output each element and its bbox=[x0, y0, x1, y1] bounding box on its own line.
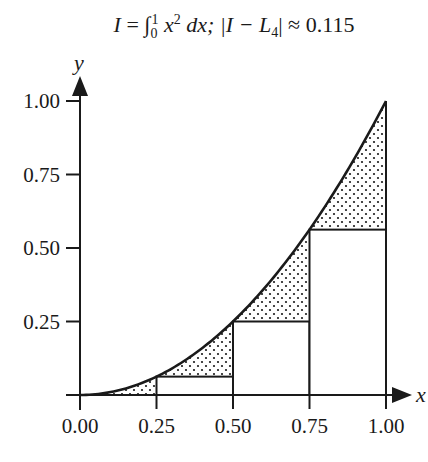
riemann-rectangle bbox=[310, 230, 387, 395]
y-tick-label: 0.25 bbox=[23, 310, 60, 334]
riemann-rectangle bbox=[233, 322, 310, 396]
x-tick-label: 1.00 bbox=[368, 414, 405, 438]
error-segment bbox=[233, 230, 310, 322]
x-tick-label: 0.75 bbox=[291, 414, 328, 438]
y-axis-arrow-icon bbox=[72, 76, 88, 96]
plot-area: xy 0.000.250.500.751.000.250.500.751.00 bbox=[0, 0, 428, 462]
x-tick-label: 0.25 bbox=[138, 414, 175, 438]
x-axis-label: x bbox=[415, 382, 426, 407]
error-segment bbox=[157, 322, 234, 377]
x-axis-arrow-icon bbox=[392, 387, 412, 403]
riemann-rectangle bbox=[157, 377, 234, 395]
y-axis-label: y bbox=[72, 50, 84, 75]
y-tick-label: 1.00 bbox=[23, 89, 60, 113]
error-segment bbox=[80, 377, 157, 395]
x-tick-label: 0.00 bbox=[62, 414, 99, 438]
y-tick-label: 0.50 bbox=[23, 236, 60, 260]
y-tick-label: 0.75 bbox=[23, 163, 60, 187]
x-tick-label: 0.50 bbox=[215, 414, 252, 438]
